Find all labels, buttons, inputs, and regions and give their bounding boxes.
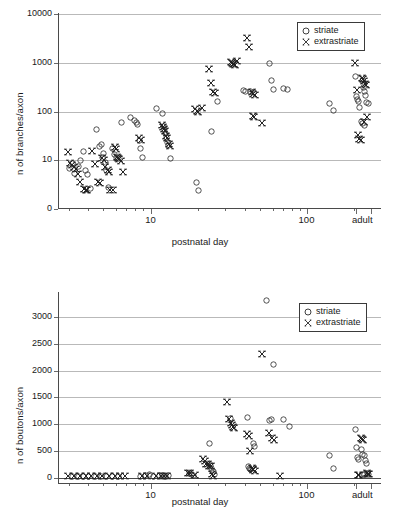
- y-axis-tick-label: 2500: [4, 339, 52, 348]
- data-point-striate: [263, 297, 270, 304]
- data-point-striate: [280, 416, 287, 423]
- data-point-striate: [268, 77, 275, 84]
- data-point-striate: [118, 119, 125, 126]
- data-point-striate: [139, 154, 146, 161]
- x-axis-tick-label: 100: [287, 215, 327, 225]
- y-axis-line: [58, 13, 59, 208]
- legend-row-striate: striate: [304, 306, 361, 317]
- data-point-extrastriate: [230, 424, 238, 432]
- x-axis-minor-tick: [225, 484, 226, 486]
- x-axis-minor-tick: [225, 209, 226, 211]
- data-point-striate: [84, 171, 91, 178]
- branches-panel: n of branches/axon 01010010001000010100a…: [0, 0, 394, 264]
- data-point-striate: [270, 86, 277, 93]
- data-point-extrastriate: [143, 472, 151, 480]
- legend-label-striate: striate: [316, 306, 341, 317]
- data-point-extrastriate: [88, 147, 96, 155]
- data-point-striate: [195, 187, 202, 194]
- data-point-extrastriate: [359, 436, 367, 444]
- legend-label-striate: striate: [314, 25, 339, 36]
- data-point-extrastriate: [353, 86, 361, 94]
- data-point-extrastriate: [251, 91, 259, 99]
- y-axis-tick-label: 100: [4, 107, 52, 116]
- data-point-extrastriate: [205, 65, 213, 73]
- x-axis-minor-tick: [198, 484, 199, 486]
- y-axis-tick-label: 0: [4, 473, 52, 482]
- data-point-striate: [98, 141, 105, 148]
- data-point-striate: [326, 452, 333, 459]
- data-point-striate: [244, 414, 251, 421]
- legend-label-extrastriate: extrastriate: [316, 317, 361, 328]
- circle-marker-icon: [304, 308, 312, 316]
- circle-marker-icon: [302, 27, 310, 35]
- bowtie-marker-icon: [304, 319, 312, 327]
- data-point-extrastriate: [96, 179, 104, 187]
- legend-row-extrastriate: extrastriate: [304, 317, 361, 328]
- data-point-extrastriate: [209, 472, 217, 480]
- gridline: [58, 14, 381, 15]
- x-axis-minor-tick: [300, 484, 301, 486]
- x-axis-minor-tick: [283, 484, 284, 486]
- data-point-extrastriate: [223, 398, 231, 406]
- data-point-striate: [270, 361, 277, 368]
- data-point-striate: [268, 416, 275, 423]
- data-point-extrastriate: [251, 467, 259, 475]
- data-point-striate: [159, 110, 166, 117]
- x-axis-minor-tick: [116, 484, 117, 486]
- x-axis-tick-label: 100: [287, 490, 327, 500]
- x-axis-minor-tick: [126, 484, 127, 486]
- x-axis-line: [58, 483, 381, 484]
- x-axis-minor-tick: [135, 484, 136, 486]
- data-point-extrastriate: [211, 89, 219, 97]
- data-point-extrastriate: [357, 136, 365, 144]
- x-axis-minor-tick: [292, 209, 293, 211]
- x-axis-line: [58, 208, 381, 209]
- data-point-extrastriate: [166, 142, 174, 150]
- data-point-extrastriate: [74, 170, 82, 178]
- data-point-extrastriate: [362, 81, 370, 89]
- data-point-extrastriate: [245, 432, 253, 440]
- x-axis-minor-tick: [260, 484, 261, 486]
- data-point-extrastriate: [117, 157, 125, 165]
- data-point-extrastriate: [258, 119, 266, 127]
- legend-row-striate: striate: [302, 25, 359, 36]
- x-axis-minor-tick: [354, 209, 355, 211]
- data-point-striate: [356, 104, 363, 111]
- x-axis-minor-tick: [245, 484, 246, 486]
- gridline: [58, 451, 381, 452]
- legend-row-extrastriate: extrastriate: [302, 36, 359, 47]
- data-point-striate: [137, 145, 144, 152]
- data-point-extrastriate: [198, 104, 206, 112]
- data-point-extrastriate: [112, 145, 120, 153]
- x-axis-minor-tick: [198, 209, 199, 211]
- data-point-striate: [352, 426, 359, 433]
- data-point-striate: [330, 465, 337, 472]
- x-axis-minor-tick: [103, 484, 104, 486]
- data-point-striate: [93, 126, 100, 133]
- x-axis-title-branches: postnatal day: [140, 236, 260, 247]
- x-axis-tick-label: 10: [131, 215, 171, 225]
- data-point-extrastriate: [258, 350, 266, 358]
- x-axis-minor-tick: [135, 209, 136, 211]
- gridline: [58, 371, 381, 372]
- data-point-extrastriate: [243, 34, 251, 42]
- data-point-striate: [286, 423, 293, 430]
- data-point-extrastriate: [245, 43, 253, 51]
- x-axis-minor-tick: [116, 209, 117, 211]
- x-axis-minor-tick: [354, 484, 355, 486]
- y-axis-tick-label: 10: [4, 155, 52, 164]
- data-point-extrastriate: [207, 462, 215, 470]
- y-axis-tick-label: 10000: [4, 9, 52, 18]
- data-point-extrastriate: [121, 472, 129, 480]
- boutons-panel: n of boutons/axon 0500100015002000250030…: [0, 264, 394, 527]
- data-point-extrastriate: [109, 186, 117, 194]
- x-axis-minor-tick: [300, 209, 301, 211]
- bowtie-marker-icon: [302, 38, 310, 46]
- x-axis-title-boutons: postnatal day: [140, 496, 260, 507]
- x-axis-minor-tick: [69, 209, 70, 211]
- data-point-striate: [365, 100, 372, 107]
- x-axis-minor-tick: [103, 209, 104, 211]
- data-point-extrastriate: [207, 79, 215, 87]
- data-point-extrastriate: [276, 472, 284, 480]
- legend-label-extrastriate: extrastriate: [314, 36, 359, 47]
